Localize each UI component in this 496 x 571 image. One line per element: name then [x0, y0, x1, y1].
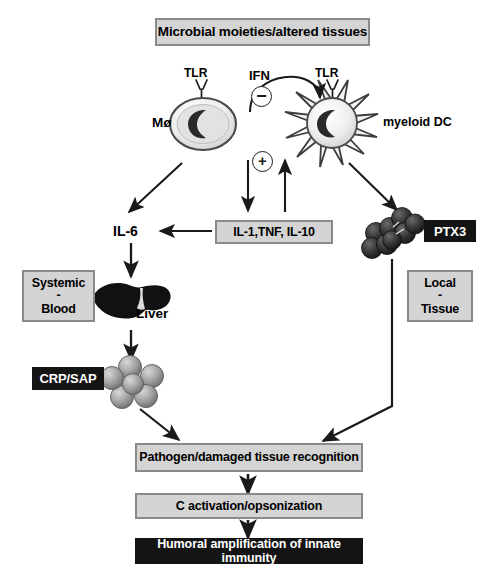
title-box: Microbial moieties/altered tissues — [155, 18, 370, 46]
arrow-crpsap-to-recognition — [140, 409, 179, 440]
outcome-box-complement-activation: C activation/opsonization — [135, 493, 363, 519]
activation-symbol-icon: + — [252, 151, 273, 172]
il6-label: IL-6 — [113, 223, 138, 239]
crp-sap-label: CRP/SAP — [39, 371, 96, 386]
macrophage-label: Mø — [152, 115, 172, 130]
ifn-label: IFN — [249, 68, 270, 83]
macrophage-cell-graphic — [170, 80, 236, 150]
myeloid-dc-label: myeloid DC — [383, 115, 452, 129]
dendritic-cell-graphic — [285, 80, 378, 167]
arrow-dc-to-ptx3 — [349, 163, 397, 210]
outcome-activation-label: C activation/opsonization — [176, 499, 322, 513]
ptx3-multimer-graphic — [362, 208, 426, 259]
arrow-ptx3-to-recognition — [323, 259, 392, 441]
diagram-canvas: Microbial moieties/altered tissues TLR M… — [0, 0, 496, 571]
local-divider: - — [438, 290, 442, 301]
outcome-amplification-label: Humoral amplification of innate immunity — [136, 537, 362, 565]
cytokine-box-label: IL-1,TNF, IL-10 — [233, 225, 315, 239]
local-line2: Tissue — [421, 302, 459, 316]
outcome-box-humoral-amplification: Humoral amplification of innate immunity — [135, 538, 363, 564]
dendritic-cell-tlr-label: TLR — [315, 66, 338, 80]
macrophage-tlr-label: TLR — [184, 66, 207, 80]
systemic-divider: - — [57, 290, 61, 301]
title-box-label: Microbial moieties/altered tissues — [158, 24, 367, 40]
inhibition-symbol-icon: − — [251, 86, 272, 107]
outcome-recognition-label: Pathogen/damaged tissue recognition — [139, 450, 358, 464]
ptx3-badge: PTX3 — [424, 220, 476, 242]
local-tissue-box: Local - Tissue — [407, 270, 473, 322]
systemic-blood-box: Systemic - Blood — [22, 270, 95, 322]
liver-label: Liver — [136, 306, 168, 321]
ptx3-label: PTX3 — [434, 224, 466, 239]
crp-sap-pentamer-graphic — [101, 356, 164, 409]
systemic-line2: Blood — [41, 302, 75, 316]
cytokine-box: IL-1,TNF, IL-10 — [215, 220, 333, 244]
crp-sap-badge: CRP/SAP — [32, 367, 104, 390]
arrow-macrophage-to-il6 — [129, 163, 182, 212]
outcome-box-recognition: Pathogen/damaged tissue recognition — [135, 443, 363, 472]
